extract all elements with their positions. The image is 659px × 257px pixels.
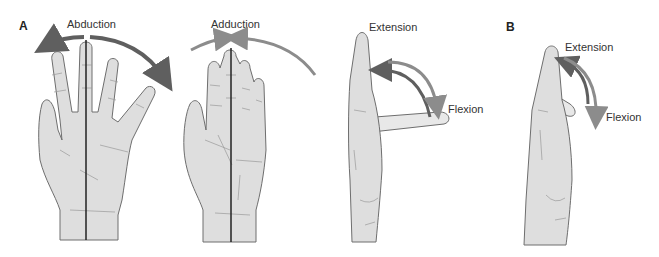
abduction-arrow-right bbox=[90, 37, 164, 78]
hand-abduction bbox=[39, 42, 155, 240]
hand-movement-illustration bbox=[0, 0, 659, 257]
hand-adduction bbox=[184, 50, 266, 242]
extension-arrow-a bbox=[380, 70, 430, 117]
flexion-arrow-a bbox=[388, 62, 437, 108]
adduction-arrow-left bbox=[191, 38, 226, 50]
extension-arrow-b bbox=[565, 62, 588, 104]
hand-lateral-flexion-b bbox=[524, 46, 575, 245]
abduction-arrow-left bbox=[48, 37, 84, 45]
